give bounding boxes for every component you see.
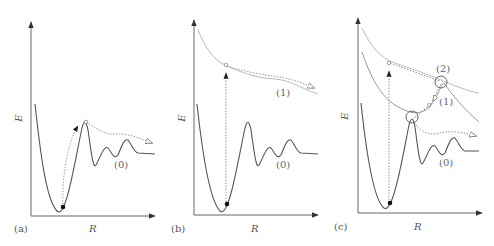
path-on-state-2 <box>390 63 440 81</box>
franck-condon-point <box>224 63 228 67</box>
y-axis-label-c: E <box>340 112 350 119</box>
panel-label-a: (a) <box>14 224 28 234</box>
x-axis-label-c: R <box>414 222 422 232</box>
panel-a <box>31 22 155 216</box>
panel-c <box>358 18 482 213</box>
curve-1 <box>198 30 318 94</box>
panel-label-b: (b) <box>171 224 185 234</box>
initial-state-marker <box>61 205 66 210</box>
curve-0 <box>361 103 479 208</box>
y-axis-label-a: E <box>14 114 24 121</box>
panel-label-c: (c) <box>334 222 347 232</box>
curve-label-1-c: (1) <box>439 97 453 107</box>
curve-0 <box>197 104 318 212</box>
curve-0 <box>35 104 155 212</box>
curve-1 <box>362 52 479 122</box>
curve-label-2-c: (2) <box>436 64 450 74</box>
dissociation-path <box>414 122 476 136</box>
intermediate-point <box>427 103 430 106</box>
x-axis-label-a: R <box>89 224 97 234</box>
excitation-path <box>63 126 78 207</box>
franck-condon-point <box>387 61 391 65</box>
initial-state-marker <box>225 202 230 207</box>
dissociation-path <box>227 66 314 88</box>
figure-canvas <box>0 0 494 246</box>
curve-label-0-c: (0) <box>439 158 453 168</box>
curve-2 <box>362 28 479 93</box>
curve-label-0-b: (0) <box>276 160 290 170</box>
curve-label-1-b: (1) <box>276 88 290 98</box>
transition-point <box>84 120 88 124</box>
panel-b <box>194 20 318 215</box>
dissociation-path <box>86 122 152 143</box>
y-axis-label-b: E <box>177 114 187 121</box>
initial-state-marker <box>388 201 393 206</box>
x-axis-label-b: R <box>251 224 259 234</box>
curve-label-0-a: (0) <box>114 160 128 170</box>
